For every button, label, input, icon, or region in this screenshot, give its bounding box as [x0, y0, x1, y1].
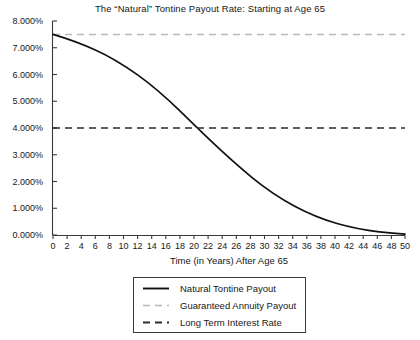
x-tick-label: 46: [372, 241, 382, 251]
y-tick-label: 0.000%: [12, 230, 43, 240]
x-tick-labels: 0 2 4 6 8 10 12 14 16 18 20 22 24 26 28 …: [50, 241, 410, 251]
x-tick-label: 36: [302, 241, 312, 251]
x-tick-label: 6: [93, 241, 98, 251]
y-tick-label: 7.000%: [12, 43, 43, 53]
chart-container: The “Natural” Tontine Payout Rate: Start…: [0, 0, 420, 340]
x-tick-label: 50: [400, 241, 410, 251]
x-axis-title: Time (in Years) After Age 65: [170, 255, 288, 266]
y-tick-label: 1.000%: [12, 203, 43, 213]
x-tick-label: 12: [133, 241, 143, 251]
x-tick-label: 2: [65, 241, 70, 251]
legend-label: Guaranteed Annuity Payout: [180, 300, 297, 311]
y-axis: 8.000% 7.000% 6.000% 5.000% 4.000% 3.000…: [12, 16, 57, 240]
y-tick-label: 3.000%: [12, 150, 43, 160]
chart-legend: Natural Tontine Payout Guaranteed Annuit…: [134, 278, 306, 333]
y-tick-label: 8.000%: [12, 16, 43, 26]
x-tick-label: 32: [274, 241, 284, 251]
x-tick-label: 42: [344, 241, 354, 251]
x-tick-label: 28: [245, 241, 255, 251]
x-tick-label: 38: [316, 241, 326, 251]
x-tick-label: 30: [259, 241, 269, 251]
x-tick-label: 10: [118, 241, 128, 251]
x-tick-label: 18: [175, 241, 185, 251]
x-tick-label: 34: [288, 241, 298, 251]
x-tick-label: 24: [217, 241, 227, 251]
x-tick-label: 20: [189, 241, 199, 251]
y-tick-label: 4.000%: [12, 123, 43, 133]
x-tick-label: 22: [203, 241, 213, 251]
x-axis: 0 2 4 6 8 10 12 14 16 18 20 22 24 26 28 …: [50, 236, 410, 267]
x-tick-label: 48: [386, 241, 396, 251]
chart-canvas: 8.000% 7.000% 6.000% 5.000% 4.000% 3.000…: [0, 0, 420, 340]
x-tick-label: 44: [358, 241, 368, 251]
x-tick-label: 40: [330, 241, 340, 251]
y-tick-group: 8.000% 7.000% 6.000% 5.000% 4.000% 3.000…: [12, 16, 43, 240]
y-tick-label: 2.000%: [12, 177, 43, 187]
x-tick-label: 4: [79, 241, 84, 251]
series-line-natural-tontine-payout: [53, 34, 405, 234]
x-tick-label: 26: [231, 241, 241, 251]
x-tick-label: 16: [161, 241, 171, 251]
x-tick-label: 14: [147, 241, 157, 251]
x-tick-label: 0: [50, 241, 55, 251]
y-tick-label: 5.000%: [12, 96, 43, 106]
plot-area: [53, 34, 405, 234]
legend-label: Long Term Interest Rate: [180, 317, 282, 328]
x-tick-label: 8: [107, 241, 112, 251]
legend-label: Natural Tontine Payout: [180, 283, 276, 294]
y-tick-label: 6.000%: [12, 70, 43, 80]
